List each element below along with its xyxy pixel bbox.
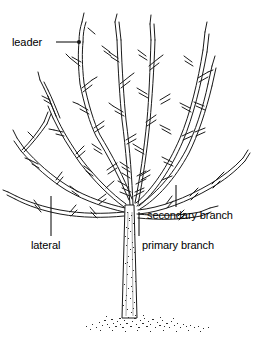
tree-drawing: [0, 0, 253, 342]
leader-node-dot: [77, 40, 81, 44]
ground-stipple: [86, 315, 209, 332]
label-leader: leader: [12, 36, 42, 48]
label-primary-branch: primary branch: [142, 239, 214, 251]
tree-structure-figure: leader lateral primary branch secondary …: [0, 0, 253, 342]
tree-trunk: [122, 205, 137, 318]
label-lateral: lateral: [31, 239, 60, 251]
label-secondary-branch: secondary branch: [147, 209, 233, 221]
